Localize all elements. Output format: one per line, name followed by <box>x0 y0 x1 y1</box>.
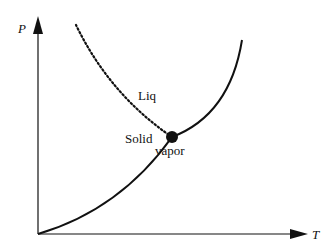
vapor-region-label: vapor <box>155 143 185 158</box>
y-axis-label: P <box>17 21 26 36</box>
x-axis-label: T <box>312 227 320 242</box>
vaporization-curve <box>172 40 242 137</box>
y-axis-arrow-icon <box>33 16 43 34</box>
triple-point <box>166 131 178 143</box>
fusion-curve <box>76 25 172 137</box>
phase-diagram: P T Liq Solid vapor <box>0 0 334 248</box>
solid-region-label: Solid <box>125 131 153 146</box>
x-axis-arrow-icon <box>290 229 308 239</box>
sublimation-curve <box>38 137 172 234</box>
liquid-region-label: Liq <box>138 88 157 103</box>
